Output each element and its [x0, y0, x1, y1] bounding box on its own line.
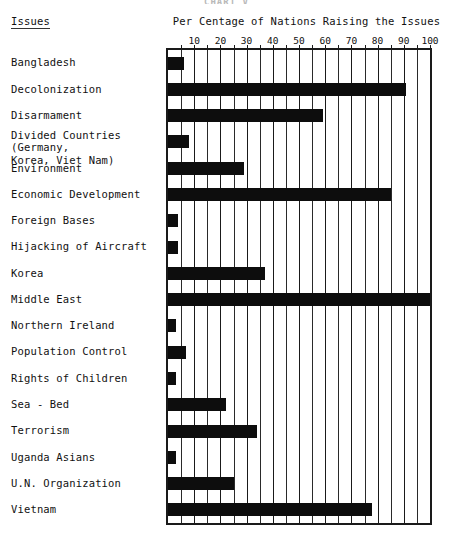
bar [168, 135, 189, 148]
bar [168, 346, 186, 359]
bar [168, 267, 265, 280]
bar [168, 503, 372, 516]
issue-label: Population Control [11, 345, 163, 358]
issue-label: Foreign Bases [11, 214, 163, 227]
bar [168, 188, 391, 201]
issue-label: Hijacking of Aircraft [11, 240, 163, 253]
gridline [338, 50, 339, 523]
bar [168, 477, 234, 490]
issue-label: Middle East [11, 293, 163, 306]
issue-label: Sea - Bed [11, 398, 163, 411]
chart-page: CHART V Issues Per Centage of Nations Ra… [0, 0, 453, 533]
bar [168, 214, 178, 227]
bar [168, 57, 184, 70]
gridline [325, 50, 326, 523]
issue-label: Uganda Asians [11, 451, 163, 464]
gridline [378, 50, 379, 523]
bar [168, 425, 257, 438]
issue-label: Rights of Children [11, 372, 163, 385]
gridline [404, 50, 405, 523]
bar [168, 319, 176, 332]
bar [168, 241, 178, 254]
bar [168, 451, 176, 464]
bar [168, 372, 176, 385]
issue-label: U.N. Organization [11, 477, 163, 490]
bar [168, 83, 406, 96]
cut-off-page-title: CHART V [0, 0, 453, 4]
issue-label: Vietnam [11, 503, 163, 516]
bar [168, 293, 430, 306]
chart-plot-area [166, 48, 432, 525]
gridline [391, 50, 392, 523]
issue-label: Bangladesh [11, 56, 163, 69]
bar [168, 398, 226, 411]
chart-title: Per Centage of Nations Raising the Issue… [160, 15, 453, 27]
gridline [417, 50, 418, 523]
issue-label: Northern Ireland [11, 319, 163, 332]
issue-label: Korea [11, 267, 163, 280]
bar [168, 109, 323, 122]
issue-label: Environment [11, 162, 163, 175]
issue-label: Economic Development [11, 188, 163, 201]
issue-label: Disarmament [11, 109, 163, 122]
gridline [365, 50, 366, 523]
issue-label: Terrorism [11, 424, 163, 437]
issue-label: Decolonization [11, 83, 163, 96]
issues-column-header: Issues [11, 15, 50, 29]
bar [168, 162, 244, 175]
gridline [351, 50, 352, 523]
